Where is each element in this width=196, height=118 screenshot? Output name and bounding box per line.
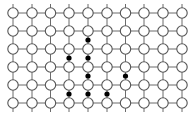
lattice-node-circle [45, 26, 55, 36]
lattice-node-circle [45, 62, 55, 72]
lattice-node-circle [120, 62, 130, 72]
lattice-node-circle [45, 80, 55, 90]
lattice-node-circle [120, 80, 130, 90]
lattice-node-circle [8, 62, 18, 72]
lattice-node-circle [158, 80, 168, 90]
lattice-node-circle [83, 80, 93, 90]
lattice-node-circle [102, 62, 112, 72]
lattice-node-circle [120, 44, 130, 54]
interstitial-dot [85, 91, 90, 96]
lattice-node-circle [102, 98, 112, 108]
lattice-node-circle [139, 8, 149, 18]
interstitial-dot [85, 73, 90, 78]
lattice-node-circle [102, 44, 112, 54]
lattice-node-circle [120, 26, 130, 36]
lattice-node-circle [83, 26, 93, 36]
lattice-node-circle [27, 44, 37, 54]
lattice-node-circle [139, 44, 149, 54]
lattice-node-circle [139, 26, 149, 36]
lattice-node-circle [158, 98, 168, 108]
lattice-node-circle [8, 98, 18, 108]
lattice-diagram [0, 0, 196, 118]
interstitial-dot [123, 73, 128, 78]
lattice-node-circle [64, 8, 74, 18]
lattice-node-circle [102, 26, 112, 36]
lattice-node-circle [102, 80, 112, 90]
lattice-node-circle [83, 62, 93, 72]
lattice-node-circle [139, 98, 149, 108]
lattice-node-circle [8, 80, 18, 90]
lattice-node-circle [139, 80, 149, 90]
lattice-node-circle [64, 98, 74, 108]
lattice-node-circle [177, 62, 187, 72]
lattice-node-circle [8, 8, 18, 18]
lattice-node-circle [27, 8, 37, 18]
interstitial-dot [66, 91, 71, 96]
lattice-node-circle [45, 44, 55, 54]
lattice-node-circle [158, 44, 168, 54]
interstitial-dot [85, 55, 90, 60]
lattice-node-circle [45, 8, 55, 18]
lattice-node-circle [64, 80, 74, 90]
lattice-node-circle [158, 8, 168, 18]
lattice-node-circle [177, 44, 187, 54]
interstitial-dot [66, 55, 71, 60]
lattice-node-circle [83, 98, 93, 108]
lattice-node-circle [27, 62, 37, 72]
interstitial-dot [104, 91, 109, 96]
lattice-node-circle [45, 98, 55, 108]
lattice-node-circle [120, 8, 130, 18]
lattice-node-circle [177, 98, 187, 108]
lattice-node-circle [83, 8, 93, 18]
lattice-node-circle [8, 26, 18, 36]
lattice-node-circle [27, 26, 37, 36]
lattice-figure [0, 0, 196, 118]
lattice-node-circle [177, 80, 187, 90]
lattice-node-circle [64, 26, 74, 36]
lattice-node-circle [102, 8, 112, 18]
lattice-node-circle [64, 62, 74, 72]
lattice-node-circle [27, 80, 37, 90]
lattice-node-circle [27, 98, 37, 108]
lattice-node-circle [64, 44, 74, 54]
interstitial-dot [85, 37, 90, 42]
lattice-node-circle [177, 26, 187, 36]
lattice-node-circle [120, 98, 130, 108]
lattice-node-circle [83, 44, 93, 54]
lattice-node-circle [177, 8, 187, 18]
lattice-node-circle [158, 26, 168, 36]
lattice-node-circle [8, 44, 18, 54]
lattice-node-circle [158, 62, 168, 72]
lattice-node-circle [139, 62, 149, 72]
